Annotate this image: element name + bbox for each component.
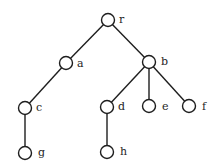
labels-layer: rabcdefgh: [36, 13, 207, 159]
node-label-e: e: [162, 100, 169, 113]
edges-layer: [25, 20, 189, 153]
tree-diagram-canvas: rabcdefgh: [0, 0, 217, 168]
node-label-d: d: [118, 100, 125, 113]
node-a: [60, 57, 73, 70]
node-r: [102, 14, 115, 27]
edge-r-b: [108, 20, 149, 62]
node-label-r: r: [119, 13, 125, 26]
edge-b-f: [149, 62, 189, 106]
edge-a-c: [25, 63, 66, 108]
node-b: [143, 56, 156, 69]
edge-b-d: [107, 62, 149, 107]
edge-r-a: [66, 20, 108, 63]
node-label-b: b: [161, 55, 168, 68]
node-f: [183, 100, 196, 113]
node-label-a: a: [77, 57, 84, 70]
node-d: [101, 101, 114, 114]
tree-diagram: rabcdefgh: [0, 0, 217, 168]
node-c: [19, 102, 32, 115]
node-label-h: h: [120, 145, 127, 158]
node-g: [19, 147, 32, 160]
node-e: [143, 100, 156, 113]
node-h: [101, 146, 114, 159]
node-label-c: c: [36, 101, 42, 114]
node-label-f: f: [202, 100, 207, 113]
node-label-g: g: [38, 146, 45, 159]
